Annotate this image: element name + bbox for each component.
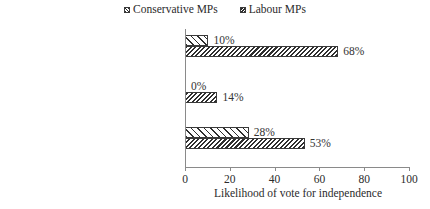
forward-hatch-swatch-icon xyxy=(124,7,130,13)
bar-row-conservative: 0% xyxy=(186,81,410,92)
bar-row-labour: 68% xyxy=(186,46,410,57)
legend-item-label: Labour MPs xyxy=(249,4,306,16)
bar-value-label: 68% xyxy=(338,46,364,58)
bar-row-conservative: 28% xyxy=(186,127,410,138)
bar-conservative xyxy=(186,127,249,138)
bar-labour xyxy=(186,46,338,57)
bar-group: Welsh independence 0% 14% xyxy=(186,81,410,105)
x-axis-tick xyxy=(409,167,410,171)
x-axis-tick xyxy=(275,167,276,171)
legend-item-labour-mps: Labour MPs xyxy=(240,4,306,16)
bar-value-label: 14% xyxy=(217,92,243,104)
bar-row-labour: 53% xyxy=(186,138,410,149)
bar-row-conservative: 10% xyxy=(186,35,410,46)
legend-item-label: Conservative MPs xyxy=(133,4,218,16)
bar-value-label: 0% xyxy=(186,81,206,93)
x-axis-title: Likelihood of vote for independence xyxy=(186,188,410,200)
x-axis-tick-label: 60 xyxy=(314,174,326,186)
x-axis-tick-label: 40 xyxy=(269,174,281,186)
legend-item-conservative-mps: Conservative MPs xyxy=(124,4,218,16)
bar-group: Scottish independence 10% 68% xyxy=(186,35,410,59)
x-axis-tick-label: 20 xyxy=(224,174,236,186)
bar-conservative xyxy=(186,35,208,46)
chart-legend: Conservative MPs Labour MPs xyxy=(0,2,430,18)
bar-row-labour: 14% xyxy=(186,92,410,103)
x-axis-line xyxy=(185,167,410,168)
bar-labour xyxy=(186,92,217,103)
bar-value-label: 53% xyxy=(305,138,331,150)
bar-group: Northern Ireland joins the republic 28% … xyxy=(186,127,410,151)
x-axis-tick xyxy=(319,167,320,171)
x-axis-tick-label: 80 xyxy=(358,174,370,186)
x-axis-tick-label: 100 xyxy=(400,174,417,186)
x-axis-tick xyxy=(230,167,231,171)
bar-labour xyxy=(186,138,305,149)
plot-area: Scottish independence 10% 68% Welsh inde… xyxy=(186,29,410,167)
bar-value-label: 10% xyxy=(208,35,234,47)
x-axis-tick xyxy=(185,167,186,171)
x-axis-tick xyxy=(364,167,365,171)
x-axis-tick-label: 0 xyxy=(182,174,188,186)
bar-value-label: 28% xyxy=(249,127,275,139)
back-hatch-swatch-icon xyxy=(240,7,246,13)
